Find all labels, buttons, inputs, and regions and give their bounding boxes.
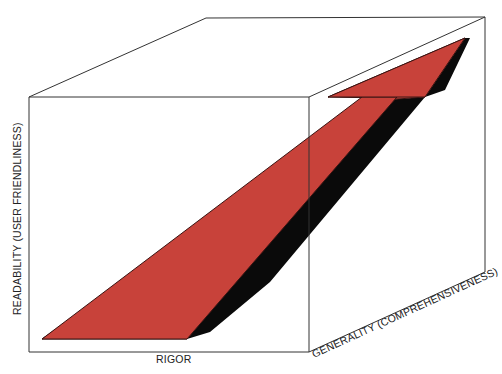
z-axis-label: GENERALITY (COMPREHENSIVENESS)	[310, 265, 500, 360]
y-axis-label: READABILITY (USER FRIENDLINESS)	[11, 122, 23, 315]
cube-edge-top-left-diag	[29, 18, 206, 97]
cube-edge-top-back	[206, 17, 485, 18]
cube-arrow-diagram: RIGOR READABILITY (USER FRIENDLINESS) GE…	[0, 0, 502, 374]
x-axis-label: RIGOR	[156, 353, 192, 365]
